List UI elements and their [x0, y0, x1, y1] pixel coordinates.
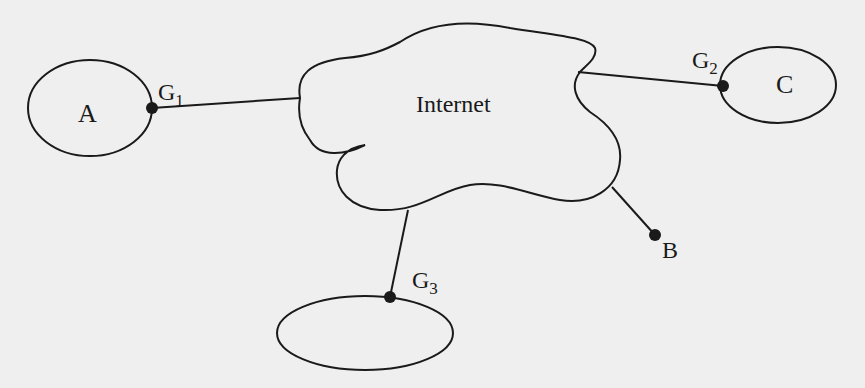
link-internet-g3 — [390, 210, 408, 297]
internet-label: Internet — [416, 91, 491, 117]
host-b-dot — [649, 229, 661, 241]
gateway-g1-label: G1 — [158, 79, 184, 110]
gateway-g3-label: G3 — [412, 267, 438, 298]
network-c-label: C — [776, 70, 793, 99]
network-a-label: A — [78, 99, 97, 128]
network-g3-ellipse — [277, 296, 453, 370]
link-internet-g2 — [578, 72, 723, 86]
host-b-label: B — [662, 237, 678, 263]
gateway-g1-dot — [146, 102, 158, 114]
diagram-svg: A G1 Internet G2 C B G3 — [0, 0, 865, 388]
gateway-g2-label: G2 — [692, 47, 718, 78]
link-internet-b — [612, 187, 655, 235]
network-diagram: A G1 Internet G2 C B G3 — [0, 0, 865, 388]
gateway-g3-dot — [384, 291, 396, 303]
gateway-g2-dot — [717, 80, 729, 92]
